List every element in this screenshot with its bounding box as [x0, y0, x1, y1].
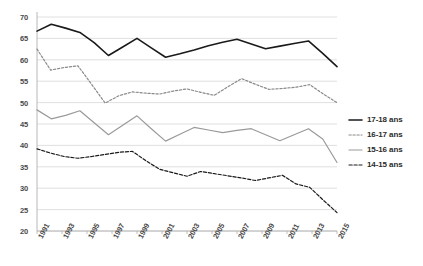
legend-item-label: 15-16 ans [367, 145, 403, 154]
legend-item[interactable]: 16-17 ans [348, 127, 403, 142]
data-series-group [37, 24, 337, 212]
legend-item-label: 14-15 ans [367, 160, 403, 169]
legend-item-label: 17-18 ans [367, 115, 403, 124]
legend-line-swatch-icon [348, 145, 363, 155]
gridlines [37, 17, 337, 231]
legend-line-swatch-icon [348, 160, 363, 170]
axis-lines [37, 12, 337, 231]
legend-item[interactable]: 14-15 ans [348, 157, 403, 172]
line-chart: 2025303540455055606570 19911993199519971… [0, 0, 423, 266]
series-line-16-17-ans [37, 49, 337, 103]
series-line-14-15-ans [37, 149, 337, 213]
legend-item[interactable]: 15-16 ans [348, 142, 403, 157]
chart-legend: 17-18 ans16-17 ans15-16 ans14-15 ans [348, 112, 403, 172]
series-line-17-18-ans [37, 24, 337, 66]
series-line-15-16-ans [37, 110, 337, 163]
legend-item[interactable]: 17-18 ans [348, 112, 403, 127]
legend-line-swatch-icon [348, 130, 363, 140]
legend-line-swatch-icon [348, 115, 363, 125]
legend-item-label: 16-17 ans [367, 130, 403, 139]
